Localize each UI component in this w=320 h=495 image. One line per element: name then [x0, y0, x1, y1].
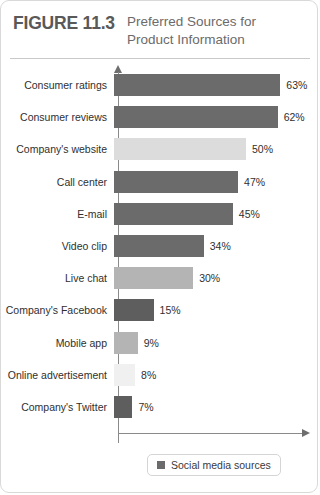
bar-category-label: Company's Twitter	[1, 401, 113, 413]
bar-and-value: 8%	[114, 364, 156, 386]
bar-row: Live chat30%	[1, 267, 220, 289]
bar-row: Consumer reviews62%	[1, 106, 305, 128]
bar	[114, 138, 246, 160]
bar	[114, 106, 278, 128]
bar-row: Video clip34%	[1, 235, 231, 257]
bar-and-value: 63%	[114, 74, 307, 96]
bar-row: Call center47%	[1, 171, 265, 193]
bar-row: E-mail45%	[1, 203, 260, 225]
bar-category-label: Call center	[1, 176, 113, 188]
bar	[114, 74, 280, 96]
bar	[114, 203, 233, 225]
bar-value-label: 63%	[286, 79, 307, 91]
bar-and-value: 45%	[114, 203, 260, 225]
x-axis-line	[118, 433, 304, 434]
bar	[114, 332, 138, 354]
bar-value-label: 30%	[199, 272, 220, 284]
bar-category-label: Mobile app	[1, 337, 113, 349]
bar-and-value: 7%	[114, 396, 154, 418]
bar-row: Consumer ratings63%	[1, 74, 307, 96]
x-axis-arrow-icon	[302, 429, 310, 437]
legend-swatch-icon	[157, 461, 165, 469]
bar-value-label: 47%	[244, 176, 265, 188]
bar-row: Mobile app9%	[1, 332, 159, 354]
bar-and-value: 30%	[114, 267, 220, 289]
bar-value-label: 8%	[141, 369, 156, 381]
bar	[114, 171, 238, 193]
figure-card: FIGURE 11.3 Preferred Sources for Produc…	[0, 0, 318, 493]
bar-and-value: 34%	[114, 235, 231, 257]
bar-value-label: 45%	[239, 208, 260, 220]
bar	[114, 235, 204, 257]
bar-value-label: 9%	[144, 337, 159, 349]
bar-category-label: Company's Facebook	[1, 304, 113, 316]
bar	[114, 267, 193, 289]
bar-row: Online advertisement8%	[1, 364, 156, 386]
chart-legend: Social media sources	[147, 454, 281, 476]
bar	[114, 364, 135, 386]
bar	[114, 396, 132, 418]
header-divider	[10, 58, 310, 59]
bar-row: Company's Twitter7%	[1, 396, 154, 418]
bar-value-label: 34%	[210, 240, 231, 252]
figure-header: FIGURE 11.3 Preferred Sources for Produc…	[1, 1, 317, 48]
figure-number: FIGURE 11.3	[13, 13, 115, 34]
bar-and-value: 15%	[114, 299, 181, 321]
bar-category-label: Consumer ratings	[1, 79, 113, 91]
bar-row: Company's Facebook15%	[1, 299, 181, 321]
bar-and-value: 62%	[114, 106, 305, 128]
bar-row: Company's website50%	[1, 138, 273, 160]
bar-and-value: 9%	[114, 332, 159, 354]
bar-category-label: Company's website	[1, 143, 113, 155]
bar-category-label: E-mail	[1, 208, 113, 220]
bar-category-label: Live chat	[1, 272, 113, 284]
legend-item-label: Social media sources	[171, 459, 271, 471]
bar-value-label: 62%	[284, 111, 305, 123]
bar-category-label: Consumer reviews	[1, 111, 113, 123]
figure-title: Preferred Sources for Product Informatio…	[127, 13, 292, 48]
bar-value-label: 15%	[160, 304, 181, 316]
bar-value-label: 7%	[138, 401, 153, 413]
bar-value-label: 50%	[252, 143, 273, 155]
bar-category-label: Video clip	[1, 240, 113, 252]
bar-and-value: 50%	[114, 138, 273, 160]
bar-and-value: 47%	[114, 171, 265, 193]
bar-chart: Consumer ratings63%Consumer reviews62%Co…	[1, 63, 318, 438]
bar-category-label: Online advertisement	[1, 369, 113, 381]
bar	[114, 299, 154, 321]
